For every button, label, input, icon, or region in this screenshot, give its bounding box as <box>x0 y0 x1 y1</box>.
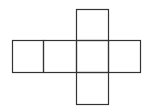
square-row-2 <box>44 41 77 73</box>
square-row-1 <box>13 41 44 73</box>
square-row-3 <box>77 41 109 73</box>
square-bottom <box>77 73 109 105</box>
square-top <box>77 10 109 41</box>
square-row-4 <box>109 41 141 73</box>
cube-net-diagram <box>0 0 148 112</box>
